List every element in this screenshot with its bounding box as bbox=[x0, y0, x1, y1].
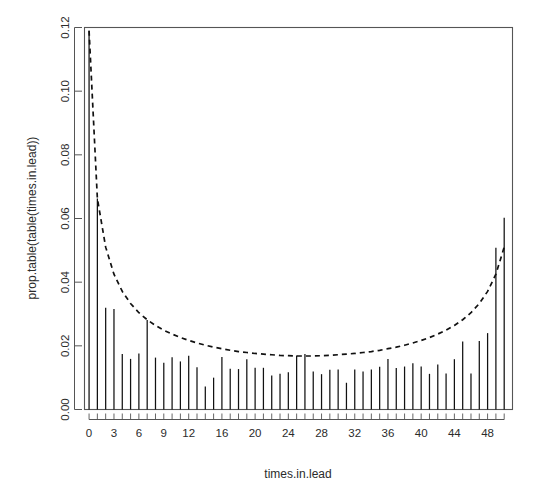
y-tick-label: 0.10 bbox=[59, 80, 71, 102]
x-tick-label: 48 bbox=[481, 427, 494, 439]
y-tick-label: 0.08 bbox=[59, 144, 71, 166]
y-axis-title: prop.table(table(times.in.lead)) bbox=[25, 137, 39, 300]
y-tick-label: 0.02 bbox=[59, 335, 71, 357]
chart-figure: prop.table(table(times.in.lead)) times.i… bbox=[0, 0, 534, 501]
x-tick-label: 3 bbox=[111, 427, 117, 439]
barplot-svg: prop.table(table(times.in.lead)) times.i… bbox=[0, 0, 534, 501]
y-tick-label: 0.00 bbox=[59, 398, 71, 420]
x-tick-label: 40 bbox=[415, 427, 428, 439]
x-tick-label: 12 bbox=[182, 427, 195, 439]
x-axis-title-text: times.in.lead bbox=[264, 467, 331, 481]
x-tick-label: 9 bbox=[161, 427, 167, 439]
x-tick-label: 16 bbox=[216, 427, 229, 439]
x-tick-label: 28 bbox=[315, 427, 328, 439]
x-tick-label: 24 bbox=[282, 427, 295, 439]
x-tick-label: 6 bbox=[136, 427, 142, 439]
y-tick-label: 0.04 bbox=[59, 270, 71, 293]
x-axis-title: times.in.lead bbox=[264, 467, 331, 481]
x-tick-label: 44 bbox=[448, 427, 461, 439]
y-tick-label: 0.06 bbox=[59, 207, 71, 229]
x-tick-label: 20 bbox=[249, 427, 262, 439]
x-tick-label: 32 bbox=[348, 427, 361, 439]
y-axis-title-text: prop.table(table(times.in.lead)) bbox=[25, 137, 39, 300]
y-tick-label: 0.12 bbox=[59, 16, 71, 38]
x-tick-label: 0 bbox=[86, 427, 92, 439]
x-tick-label: 36 bbox=[382, 427, 395, 439]
